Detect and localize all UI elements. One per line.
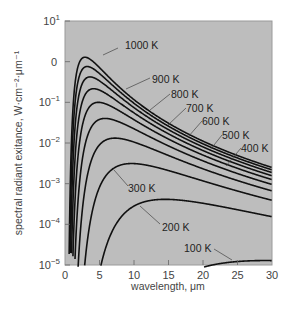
curve-label-500k: 500 K [222,129,249,141]
x-tick-label: 0 [62,269,68,281]
curve-label-900k: 900 K [152,73,179,85]
y-tick-label: 10−2 [39,135,61,149]
curve-label-600k: 600 K [202,115,229,127]
x-tick-label: 25 [231,269,243,281]
curve-label-100k: 100 K [184,242,211,254]
y-tick-label: 10−3 [39,176,61,190]
curve-label-200k: 200 K [162,221,189,233]
x-tick-label: 5 [96,269,102,281]
curve-label-400k: 400 K [241,142,268,154]
y-axis-title: spectral radiant exitance, W·cm⁻²·μm⁻¹ [12,50,24,235]
blackbody-radiation-chart: 1000 K900 K800 K700 K600 K500 K400 K300 … [0,0,286,309]
x-axis-title: wavelength, μm [130,280,205,292]
curve-label-300k: 300 K [128,182,155,194]
y-tick-label: 10−1 [39,94,61,108]
curve-label-1000k: 1000 K [125,39,158,51]
curve-label-700k: 700 K [186,102,213,114]
y-tick-label: 10−4 [39,216,61,230]
y-tick-label: 101 [43,13,60,27]
x-tick-label: 30 [266,269,278,281]
y-tick-label: 0 [51,56,57,68]
y-tick-label: 10−5 [39,257,61,271]
curve-label-800k: 800 K [171,88,198,100]
